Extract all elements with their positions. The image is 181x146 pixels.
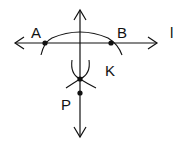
geometry-diagram: A B l K P xyxy=(0,0,181,146)
arc-from-a xyxy=(72,60,96,88)
perpendicular-line xyxy=(74,10,86,137)
point-b xyxy=(108,40,113,45)
point-a xyxy=(42,40,47,45)
point-p xyxy=(77,90,82,95)
label-k: K xyxy=(105,62,115,79)
label-b: B xyxy=(117,24,127,41)
label-p: P xyxy=(61,96,71,113)
point-k xyxy=(77,76,82,81)
label-a: A xyxy=(31,24,41,41)
arc-from-b xyxy=(66,60,89,88)
label-l: l xyxy=(170,24,173,41)
